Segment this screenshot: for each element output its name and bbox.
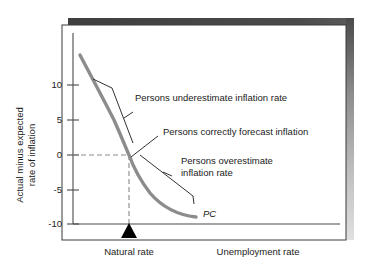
underestimate-annotation-label: Persons underestimate inflation rate: [135, 92, 287, 103]
overestimate-annotation-label-line1: Persons overestimate: [181, 155, 273, 166]
phillips-curve-figure: 10 5 0 -5 -10 Actual minus expected rate…: [0, 0, 366, 269]
y-tick-label-5: 5: [57, 114, 62, 125]
y-tick-label-0: 0: [57, 149, 62, 160]
y-axis-tick-labels: 10 5 0 -5 -10: [48, 79, 62, 229]
natural-rate-label: Natural rate: [104, 246, 154, 257]
panel-shadow-right: [346, 18, 354, 240]
y-axis-title-line1: Actual minus expected: [14, 107, 25, 203]
y-tick-label-neg5: -5: [54, 184, 62, 195]
curve-label-pc: PC: [203, 208, 216, 219]
overestimate-annotation-label-line2: inflation rate: [181, 167, 233, 178]
correct-forecast-annotation-label: Persons correctly forecast inflation: [163, 126, 308, 137]
figure-root: 10 5 0 -5 -10 Actual minus expected rate…: [0, 0, 366, 269]
y-axis-title-line2: rate of inflation: [26, 124, 37, 186]
y-axis-title: Actual minus expected rate of inflation: [14, 107, 37, 203]
y-tick-label-neg10: -10: [48, 218, 62, 229]
y-tick-label-10: 10: [51, 79, 62, 90]
x-axis-title: Unemployment rate: [217, 246, 300, 257]
